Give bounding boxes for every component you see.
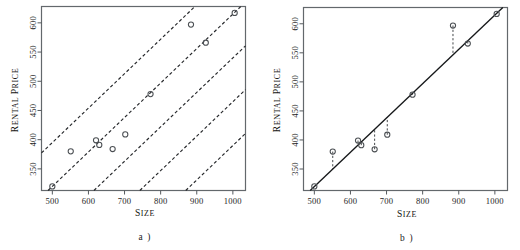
x-tick-label: 1000 [486,196,504,206]
candidate-fit-line [140,90,246,191]
panel-a-y-ticks: 350400450500550600 [28,16,42,176]
data-point [97,142,102,147]
x-tick-label: 500 [46,196,60,206]
y-tick-label: 450 [28,104,38,118]
panel-b-caption: b ) [400,233,414,244]
x-tick-label: 600 [344,196,358,206]
y-tick-label: 600 [290,17,300,31]
panel-b-x-ticks: 5006007008009001000 [308,191,504,207]
panel-b-y-axis-title: RENTAL PRICE [271,68,282,132]
y-tick-label: 550 [28,45,38,59]
data-point [188,22,193,27]
y-tick-label: 500 [28,75,38,89]
x-tick-label: 500 [308,196,322,206]
panel-b-plot: 350400450500550600 5006007008009001000 S… [260,0,520,250]
panel-a-candidate-lines [42,7,246,191]
panel-b-x-axis-title: SIZE [397,208,417,219]
x-tick-label: 800 [416,196,430,206]
panel-a-caption: a ) [138,232,151,243]
panel-b-regression-line [310,8,503,191]
panel-a-x-ticks: 5006007008009001000 [46,191,242,207]
candidate-fit-line [42,7,195,153]
panel-a-y-axis-title: RENTAL PRICE [9,68,20,132]
candidate-fit-line [186,133,246,190]
y-tick-label: 350 [290,162,300,176]
x-tick-label: 900 [190,196,204,206]
x-tick-label: 600 [82,196,96,206]
y-tick-label: 450 [290,104,300,118]
data-point [110,146,115,151]
candidate-fit-line [48,7,241,191]
x-tick-label: 700 [118,196,132,206]
data-point [68,149,73,154]
x-tick-label: 800 [154,196,168,206]
x-tick-label: 700 [380,196,394,206]
panel-a: 350400450500550600 5006007008009001000 S… [0,0,260,250]
panel-b: 350400450500550600 5006007008009001000 S… [260,0,520,250]
y-tick-label: 400 [290,133,300,147]
regression-line [310,8,503,191]
y-tick-label: 500 [290,75,300,89]
y-tick-label: 400 [28,133,38,147]
panel-b-y-ticks: 350400450500550600 [290,17,304,176]
x-tick-label: 1000 [224,196,242,206]
data-point [203,40,208,45]
panel-b-frame [304,8,508,191]
panel-a-x-axis-title: SIZE [135,207,155,218]
data-point [93,138,98,143]
candidate-fit-line [94,46,246,191]
x-tick-label: 900 [452,196,466,206]
figure-container: 350400450500550600 5006007008009001000 S… [0,0,520,250]
y-tick-label: 550 [290,46,300,60]
panel-a-plot: 350400450500550600 5006007008009001000 S… [0,0,260,250]
y-tick-label: 600 [28,16,38,30]
data-point [123,132,128,137]
y-tick-label: 350 [28,162,38,176]
